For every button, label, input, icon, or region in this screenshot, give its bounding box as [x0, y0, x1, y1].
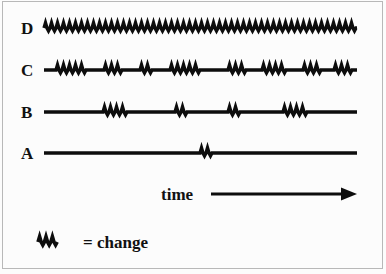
series-label-b: B [21, 104, 32, 121]
series-label-c: C [21, 62, 33, 79]
timeline-series-d [44, 23, 357, 31]
time-arrow-icon [211, 188, 357, 201]
legend-label: = change [83, 234, 148, 251]
time-axis-label: time [161, 186, 193, 203]
series-label-a: A [21, 145, 33, 162]
figure-container: D C B A time = change [0, 0, 386, 274]
zigzag-change-symbol [38, 237, 57, 245]
timeline-series-c [44, 65, 357, 73]
series-label-d: D [21, 20, 33, 37]
timeline-plot [0, 0, 386, 274]
arrow-head [341, 188, 357, 201]
timeline-series-b [44, 107, 357, 115]
timeline-series-a [44, 148, 357, 156]
